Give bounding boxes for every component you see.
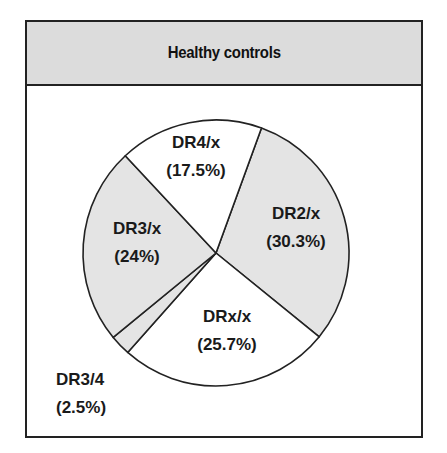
slice-pct: (30.3%) bbox=[266, 232, 326, 251]
slice-pct: (2.5%) bbox=[56, 398, 106, 417]
slice-name: DRx/x bbox=[203, 307, 252, 326]
pie-chart: DR4/x (17.5%) DR2/x (30.3%) DR3/x (24%) … bbox=[0, 0, 447, 453]
slice-name: DR3/x bbox=[113, 219, 162, 238]
slice-name: DR4/x bbox=[172, 133, 221, 152]
slice-name: DR3/4 bbox=[56, 370, 105, 389]
slice-pct: (25.7%) bbox=[197, 335, 257, 354]
slice-name: DR2/x bbox=[272, 204, 321, 223]
slice-pct: (24%) bbox=[114, 247, 159, 266]
slice-label-dr34: DR3/4 (2.5%) bbox=[56, 370, 106, 417]
slice-pct: (17.5%) bbox=[166, 161, 226, 180]
